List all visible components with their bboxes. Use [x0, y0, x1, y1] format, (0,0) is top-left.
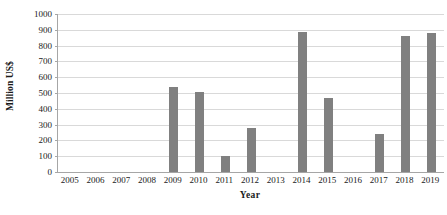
x-axis-tick-label: 2012: [237, 175, 263, 186]
bar-slot: [187, 14, 213, 172]
y-axis-tick-label: 100: [39, 152, 53, 161]
bar[interactable]: [247, 128, 256, 172]
x-axis-tick-label: 2016: [340, 175, 366, 186]
plot-area: [57, 14, 444, 173]
bar[interactable]: [427, 33, 436, 172]
y-axis-tick-label: 800: [39, 41, 53, 50]
bar-slot: [341, 14, 367, 172]
y-axis-title: Million US$: [2, 0, 18, 172]
bar[interactable]: [375, 134, 384, 172]
y-axis-tick-label: 700: [39, 57, 53, 66]
x-axis-tick-label: 2009: [160, 175, 186, 186]
y-axis-tick-labels: 01002003004005006007008009001000: [18, 14, 56, 172]
y-axis-tick-label: 400: [39, 104, 53, 113]
bar-slot: [393, 14, 419, 172]
x-axis-tick-label: 2018: [392, 175, 418, 186]
bar[interactable]: [169, 87, 178, 172]
bar-slot: [238, 14, 264, 172]
bar-chart: Million US$ 0100200300400500600700800900…: [0, 0, 447, 215]
bar-slot: [161, 14, 187, 172]
y-axis-tick-label: 0: [48, 168, 53, 177]
x-axis-tick-label: 2006: [83, 175, 109, 186]
bar-slot: [367, 14, 393, 172]
bar[interactable]: [324, 98, 333, 172]
x-axis-tick-label: 2008: [134, 175, 160, 186]
x-axis-tick-label: 2013: [263, 175, 289, 186]
bars-layer: [58, 14, 444, 172]
y-axis-tick-label: 600: [39, 73, 53, 82]
y-axis-tick-label: 200: [39, 136, 53, 145]
y-axis-tick-label: 300: [39, 120, 53, 129]
bar-slot: [135, 14, 161, 172]
x-axis-tick-label: 2011: [211, 175, 237, 186]
bar-slot: [290, 14, 316, 172]
x-axis-tick-label: 2019: [417, 175, 443, 186]
bar[interactable]: [195, 92, 204, 172]
x-axis-tick-label: 2015: [314, 175, 340, 186]
x-axis-tick-label: 2014: [289, 175, 315, 186]
bar-slot: [315, 14, 341, 172]
bar-slot: [418, 14, 444, 172]
y-axis-title-text: Million US$: [5, 61, 15, 111]
x-axis-tick-label: 2007: [108, 175, 134, 186]
x-axis-tick-labels: 2005200620072008200920102011201220132014…: [57, 175, 443, 186]
bar[interactable]: [298, 32, 307, 172]
x-axis-tick-label: 2017: [366, 175, 392, 186]
bar-slot: [212, 14, 238, 172]
bar-slot: [84, 14, 110, 172]
x-axis-tick-label: 2005: [57, 175, 83, 186]
y-axis-tick-label: 500: [39, 89, 53, 98]
bar-slot: [264, 14, 290, 172]
bar-slot: [109, 14, 135, 172]
bar[interactable]: [221, 156, 230, 172]
y-axis-tickmark: [55, 172, 58, 173]
y-axis-tick-label: 900: [39, 25, 53, 34]
x-axis-title: Year: [57, 190, 443, 200]
y-axis-tick-label: 1000: [34, 10, 52, 19]
bar-slot: [58, 14, 84, 172]
bar[interactable]: [401, 36, 410, 172]
x-axis-tick-label: 2010: [186, 175, 212, 186]
